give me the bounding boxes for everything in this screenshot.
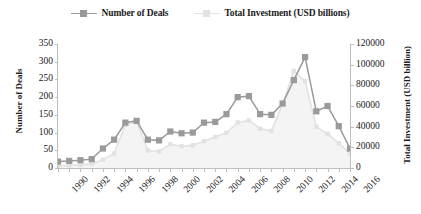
total-investment-point [112,151,116,155]
y-axis-right-tick-mark [351,147,354,148]
y-axis-right-tick-mark [351,127,354,128]
plot-area [58,44,350,168]
total-investment-point [224,131,228,135]
series-total-investment [58,69,350,168]
y-axis-right-tick-label: 40000 [356,122,402,132]
number-of-deals-point [58,159,61,165]
number-of-deals-point [246,93,252,99]
x-axis-tick-mark [80,169,81,172]
y-axis-right-tick-label: 80000 [356,80,402,90]
x-axis-tick-mark [125,169,126,172]
x-axis-tick-mark [260,169,261,172]
y-axis-right-title: Total Investment (USD billion) [402,35,412,175]
y-axis-right-tick-label: 120000 [356,39,402,49]
y-axis-right-tick-mark [351,85,354,86]
x-axis-tick-label: 2014 [339,174,360,195]
x-axis-tick-label: 1996 [137,174,158,195]
x-axis-tick-mark [114,169,115,172]
x-axis-tick-label: 2000 [182,174,203,195]
x-axis-tick-mark [294,169,295,172]
total-investment-point [146,148,150,152]
x-axis-tick-mark [305,169,306,172]
x-axis-tick-mark [283,169,284,172]
x-axis-tick-mark [137,169,138,172]
y-axis-right-tick-label: 20000 [356,142,402,152]
legend-label-number-of-deals: Number of Deals [101,8,168,18]
number-of-deals-point [280,100,286,106]
y-axis-left-tick-label: 100 [27,128,53,138]
plot-svg [58,44,350,168]
x-axis-tick-mark [339,169,340,172]
x-axis-tick-label: 2002 [204,174,225,195]
x-axis-tick-mark [58,169,59,172]
number-of-deals-point [313,108,319,114]
chart-container: Number of Deals Total Investment (USD bi… [0,0,421,214]
number-of-deals-point [324,103,330,109]
x-axis-tick-mark [328,169,329,172]
total-investment-point [179,144,183,148]
number-of-deals-point [268,112,274,118]
number-of-deals-point [212,119,218,125]
number-of-deals-point [77,157,83,163]
number-of-deals-point [122,120,128,126]
number-of-deals-point [201,120,207,126]
number-of-deals-point [66,158,72,164]
number-of-deals-point [302,54,308,60]
x-axis-tick-mark [170,169,171,172]
total-investment-point [337,141,341,145]
x-axis-tick-label: 1992 [92,174,113,195]
legend-label-total-investment: Total Investment (USD billions) [224,8,349,18]
y-axis-left-tick-label: 0 [27,163,53,173]
number-of-deals-point [134,118,140,124]
y-axis-right-tick-label: 0 [356,163,402,173]
x-axis-tick-label: 2010 [294,174,315,195]
x-axis-tick-mark [316,169,317,172]
total-investment-point [78,163,82,167]
total-investment-point [89,162,93,166]
x-axis-tick-mark [92,169,93,172]
legend-marker-number-of-deals [71,8,97,18]
x-axis-tick-mark [182,169,183,172]
y-axis-right-tick-label: 100000 [356,60,402,70]
x-axis-tick-label: 2004 [227,174,248,195]
number-of-deals-point [347,145,350,151]
number-of-deals-point [257,111,263,117]
y-axis-right-tick-mark [351,168,354,169]
x-axis-tick-mark [350,169,351,172]
y-axis-left-tick-label: 300 [27,57,53,67]
x-axis-tick-label: 1990 [70,174,91,195]
x-axis-tick-label: 2012 [317,174,338,195]
x-axis-tick-label: 1998 [159,174,180,195]
total-investment-point [213,135,217,139]
y-axis-left-tick-label: 150 [27,110,53,120]
total-investment-point [348,151,350,155]
y-axis-left-title: Number of Deals [14,51,24,151]
total-investment-point [247,118,251,122]
y-axis-right-tick-mark [351,65,354,66]
legend-square-icon [203,10,210,17]
number-of-deals-point [336,123,342,129]
number-of-deals-point [100,145,106,151]
legend-item-total-investment: Total Investment (USD billions) [194,8,349,18]
number-of-deals-point [223,111,229,117]
total-investment-point [314,124,318,128]
x-axis-tick-mark [249,169,250,172]
x-axis-tick-mark [148,169,149,172]
number-of-deals-point [178,130,184,136]
x-axis-tick-mark [69,169,70,172]
x-axis-tick-mark [103,169,104,172]
total-investment-point [269,129,273,133]
x-axis-tick-mark [193,169,194,172]
total-investment-point [168,142,172,146]
number-of-deals-point [156,137,162,143]
total-investment-point [303,79,307,83]
legend-square-icon [80,10,87,17]
y-axis-right-tick-mark [351,106,354,107]
number-of-deals-point [145,137,151,143]
number-of-deals-point [190,129,196,135]
y-axis-left-tick-label: 200 [27,92,53,102]
x-axis-tick-mark [159,169,160,172]
x-axis-tick-label: 1994 [114,174,135,195]
total-investment-point [101,158,105,162]
total-investment-point [202,139,206,143]
